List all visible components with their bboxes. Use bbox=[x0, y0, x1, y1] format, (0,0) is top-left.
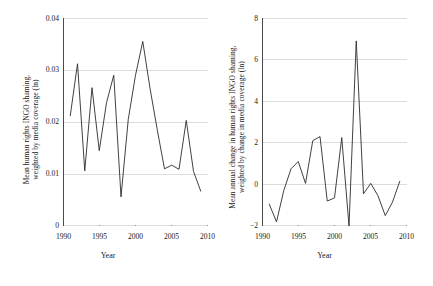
plot-area-right bbox=[262, 18, 407, 226]
x-tick-label: 2000 bbox=[120, 232, 151, 241]
y-tick-label: 0.03 bbox=[33, 65, 59, 74]
y-tick-label: 0 bbox=[33, 221, 59, 230]
line-chart-right bbox=[262, 18, 407, 226]
data-series-line bbox=[70, 41, 201, 196]
y-tick-label: 0.02 bbox=[33, 117, 59, 126]
x-tick-label: 2010 bbox=[391, 232, 422, 241]
data-series-line bbox=[269, 41, 400, 226]
x-tick-label: 2005 bbox=[156, 232, 187, 241]
x-axis-title-left: Year bbox=[0, 251, 216, 260]
x-axis-title-right: Year bbox=[216, 251, 433, 260]
chart-panel-left: Mean human rights INGO shaming, weighted… bbox=[0, 0, 216, 286]
x-tick-label: 1990 bbox=[247, 232, 278, 241]
y-tick-label: 2 bbox=[240, 138, 258, 147]
y-tick-label: −2 bbox=[238, 221, 258, 230]
x-tick-label: 2000 bbox=[319, 232, 350, 241]
x-tick-label: 1990 bbox=[48, 232, 79, 241]
x-tick-label: 2005 bbox=[355, 232, 386, 241]
y-axis-title-right: Mean annual change in human rights INGO … bbox=[228, 9, 246, 245]
figure: Mean human rights INGO shaming, weighted… bbox=[0, 0, 433, 286]
axis-spine bbox=[262, 18, 263, 226]
plot-area-left bbox=[63, 18, 208, 226]
chart-panel-right: Mean annual change in human rights INGO … bbox=[216, 0, 433, 286]
x-tick-label: 1995 bbox=[283, 232, 314, 241]
x-tick-label: 1995 bbox=[84, 232, 115, 241]
y-tick-label: 0 bbox=[240, 180, 258, 189]
y-tick-label: 0.01 bbox=[33, 169, 59, 178]
y-tick-label: 0.04 bbox=[33, 14, 59, 23]
axis-spine bbox=[63, 18, 64, 226]
y-axis-title-left: Mean human rights INGO shaming, weighted… bbox=[22, 27, 40, 232]
line-chart-left bbox=[63, 18, 208, 226]
y-tick-label: 4 bbox=[240, 97, 258, 106]
y-tick-label: 8 bbox=[240, 14, 258, 23]
y-tick-label: 6 bbox=[240, 55, 258, 64]
